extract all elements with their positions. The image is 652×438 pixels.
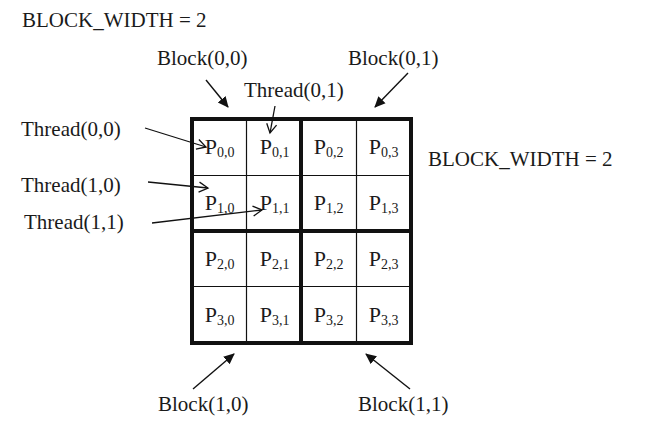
cell-index: 0,2 bbox=[326, 145, 344, 161]
block-1-0-label: Block(1,0) bbox=[158, 394, 248, 415]
cell-letter: P bbox=[314, 190, 326, 216]
cell-index: 0,0 bbox=[217, 145, 235, 161]
cell-index: 0,1 bbox=[272, 145, 290, 161]
title-block-width: BLOCK_WIDTH = 2 bbox=[22, 10, 207, 31]
grid-cell: P3,0 bbox=[192, 287, 247, 343]
cell-index: 1,3 bbox=[381, 201, 399, 217]
cell-letter: P bbox=[369, 134, 381, 160]
cell-index: 3,3 bbox=[381, 313, 399, 329]
thread-0-0-label: Thread(0,0) bbox=[21, 119, 121, 140]
cell-letter: P bbox=[314, 134, 326, 160]
grid-cell: P0,2 bbox=[301, 119, 356, 175]
block-0-1-label: Block(0,1) bbox=[348, 48, 438, 69]
grid-cell: P1,1 bbox=[247, 175, 302, 231]
thread-1-0-label: Thread(1,0) bbox=[21, 175, 121, 196]
cell-index: 3,0 bbox=[217, 313, 235, 329]
grid-cell: P2,0 bbox=[192, 231, 247, 287]
cell-letter: P bbox=[260, 246, 272, 272]
cell-index: 0,3 bbox=[381, 145, 399, 161]
grid-cell: P0,3 bbox=[356, 119, 411, 175]
cell-letter: P bbox=[205, 134, 217, 160]
block-1-1-arrow bbox=[366, 354, 410, 389]
cell-index: 2,0 bbox=[217, 257, 235, 273]
cell-index: 1,2 bbox=[326, 201, 344, 217]
cell-letter: P bbox=[369, 302, 381, 328]
grid-cell: P1,0 bbox=[192, 175, 247, 231]
grid-cell: P2,1 bbox=[247, 231, 302, 287]
grid-cell: P2,2 bbox=[301, 231, 356, 287]
cell-letter: P bbox=[314, 246, 326, 272]
block-0-1-arrow bbox=[375, 73, 408, 107]
cell-index: 2,2 bbox=[326, 257, 344, 273]
grid-cell: P3,1 bbox=[247, 287, 302, 343]
block-0-0-arrow bbox=[206, 80, 228, 107]
side-block-width-label: BLOCK_WIDTH = 2 bbox=[428, 149, 613, 170]
cell-index: 1,0 bbox=[217, 201, 235, 217]
grid-cell: P2,3 bbox=[356, 231, 411, 287]
cell-letter: P bbox=[369, 190, 381, 216]
cell-letter: P bbox=[314, 302, 326, 328]
cell-index: 2,1 bbox=[272, 257, 290, 273]
cell-letter: P bbox=[205, 190, 217, 216]
block-0-0-label: Block(0,0) bbox=[157, 48, 247, 69]
cell-letter: P bbox=[205, 246, 217, 272]
cell-index: 3,2 bbox=[326, 313, 344, 329]
cell-letter: P bbox=[260, 190, 272, 216]
grid-cell: P0,1 bbox=[247, 119, 302, 175]
cell-letter: P bbox=[260, 302, 272, 328]
cell-index: 2,3 bbox=[381, 257, 399, 273]
grid-cell: P3,3 bbox=[356, 287, 411, 343]
thread-1-1-label: Thread(1,1) bbox=[24, 212, 124, 233]
cell-letter: P bbox=[260, 134, 272, 160]
grid-cell: P1,3 bbox=[356, 175, 411, 231]
grid-cell: P1,2 bbox=[301, 175, 356, 231]
cell-index: 1,1 bbox=[272, 201, 290, 217]
cell-letter: P bbox=[205, 302, 217, 328]
block-1-0-arrow bbox=[193, 354, 234, 389]
pixel-grid: P0,0P0,1P0,2P0,3P1,0P1,1P1,2P1,3P2,0P2,1… bbox=[192, 119, 411, 343]
grid-cell: P0,0 bbox=[192, 119, 247, 175]
cell-letter: P bbox=[369, 246, 381, 272]
grid-cell: P3,2 bbox=[301, 287, 356, 343]
block-1-1-label: Block(1,1) bbox=[358, 394, 448, 415]
cell-index: 3,1 bbox=[272, 313, 290, 329]
thread-0-1-label: Thread(0,1) bbox=[244, 80, 344, 101]
